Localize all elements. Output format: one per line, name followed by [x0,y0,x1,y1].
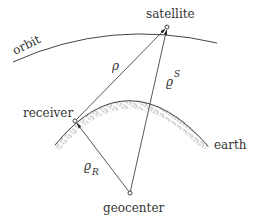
rho-s-label: ϱ S [166,69,180,89]
receiver-point [73,119,77,123]
orbit-label: orbit [10,32,43,58]
receiver-label: receiver [23,106,73,120]
geocenter-point [128,191,132,195]
rho-label: ρ [111,59,119,73]
rho-r-subscript: R [91,167,99,177]
satellite-point [165,25,169,29]
orbit-arc [13,34,217,62]
gnss-geometry-diagram: orbit satellite receiver earth geocenter… [0,0,257,223]
earth-label: earth [214,138,247,152]
rho-s-base: ϱ [166,75,173,89]
rho-r-base: ϱ [84,159,91,173]
geocenter-label: geocenter [103,201,164,215]
satellite-label: satellite [146,7,195,21]
rho-s-superscript: S [174,69,180,79]
rho-r-label: ϱ R [84,159,99,177]
